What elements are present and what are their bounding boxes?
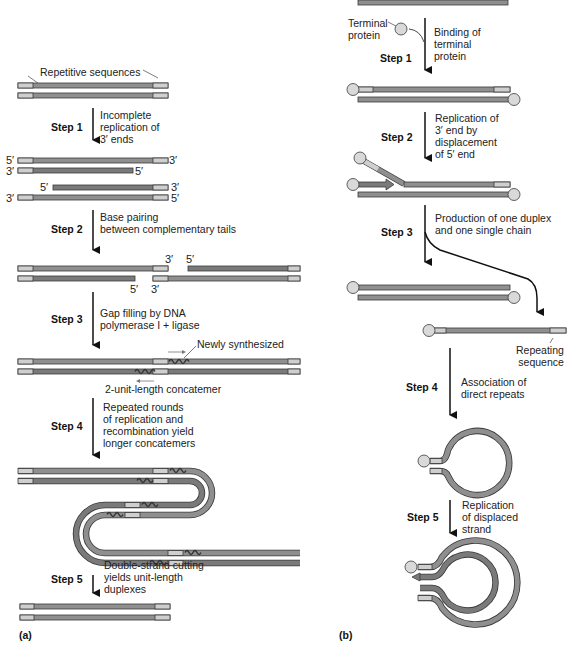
step-a5-label: Step 5 [51, 573, 83, 585]
duplex-step1-a [18, 158, 168, 173]
end-3-prime: 3′ [165, 253, 173, 265]
step-a3-text: Gap filling by DNA polymerase I + ligase [100, 307, 200, 331]
step-b4-text: Association of direct repeats [461, 376, 526, 400]
end-5-prime: 5′ [186, 253, 194, 265]
terminal-protein-label: Terminal protein [348, 17, 388, 41]
end-3-prime: 3′ [151, 283, 159, 295]
step-a5-text: Double-strand cutting yields unit-length… [104, 559, 204, 595]
step-a2-text: Base pairing between complementary tails [100, 211, 236, 235]
repetitive-sequences-label: Repetitive sequences [40, 66, 140, 78]
panhandle-ring [418, 431, 509, 495]
step-b4-label: Step 4 [406, 381, 438, 393]
end-5-prime: 5′ [135, 165, 143, 177]
unit-duplex-final [20, 604, 170, 620]
end-5-prime: 5′ [130, 283, 138, 295]
concatemer-label: 2-unit-length concatemer [105, 383, 221, 395]
paired-step2 [18, 266, 300, 281]
step-b1-text: Binding of terminal protein [434, 26, 481, 62]
panel-b-arrows [425, 18, 537, 533]
step-b1-label: Step 1 [380, 52, 412, 64]
step-a1-text: Incomplete replication of 3′ ends [100, 109, 160, 145]
panel-b-label: (b) [339, 629, 352, 641]
step-a1-label: Step 1 [51, 121, 83, 133]
duplex-after-step3 [347, 282, 520, 304]
repeating-sequence-label: Repeating sequence [516, 344, 564, 368]
step-a4-text: Repeated rounds of replication and recom… [103, 401, 195, 449]
step-b2-label: Step 2 [381, 131, 413, 143]
step-a3-label: Step 3 [51, 313, 83, 325]
step-a2-label: Step 2 [51, 223, 83, 235]
long-concatemer [18, 471, 300, 563]
end-3-prime: 3′ [169, 154, 177, 166]
duplex-initial [18, 83, 168, 98]
panel-a-label: (a) [19, 629, 32, 641]
concatemer-2unit [18, 346, 300, 383]
step-b5-label: Step 5 [407, 511, 439, 523]
end-3-prime: 3′ [6, 192, 14, 204]
double-ring [405, 541, 517, 625]
step-b5-text: Replication of displaced strand [462, 499, 518, 535]
step-b2-text: Replication of 3′ end by displacement of… [435, 112, 499, 160]
panel-b-graphics [347, 0, 566, 624]
step-a4-label: Step 4 [51, 420, 83, 432]
end-3-prime: 3′ [6, 165, 14, 177]
step-b3-text: Production of one duplex and one single … [435, 212, 551, 236]
step-b3-label: Step 3 [381, 226, 413, 238]
end-5-prime: 5′ [40, 181, 48, 193]
diagram-canvas [0, 0, 569, 647]
newly-synthesized-label: Newly synthesized [197, 338, 284, 350]
end-5-prime: 5′ [171, 192, 179, 204]
single-chain [423, 325, 566, 344]
duplex-with-proteins [347, 84, 520, 106]
